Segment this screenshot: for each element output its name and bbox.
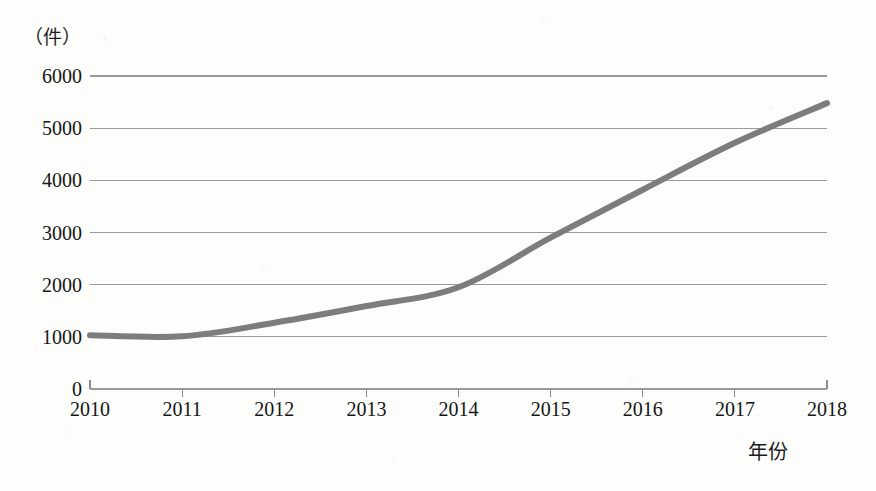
x-axis-title: 年份	[748, 436, 788, 465]
series-line-path	[90, 103, 827, 337]
x-axis-tick-label: 2013	[346, 398, 386, 421]
x-axis-tick-label: 2010	[70, 398, 110, 421]
x-axis-tick-label: 2016	[623, 398, 663, 421]
gridlines	[90, 76, 827, 389]
x-axis-tick-label: 2011	[162, 398, 201, 421]
axis-lines	[90, 380, 827, 389]
x-axis-ticks	[182, 389, 735, 397]
x-axis-tick-label: 2014	[439, 398, 479, 421]
x-axis-tick-label: 2015	[531, 398, 571, 421]
x-axis-tick-label: 2018	[807, 398, 847, 421]
x-axis-tick-label: 2017	[715, 398, 755, 421]
data-series-line	[90, 103, 827, 337]
chart-figure: （件） 0100020003000400050006000 年份 2010201…	[0, 0, 876, 491]
x-axis-tick-label: 2012	[254, 398, 294, 421]
